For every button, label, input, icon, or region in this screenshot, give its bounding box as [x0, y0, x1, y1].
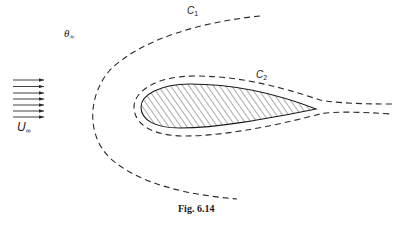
label-theta-infinity: θ∞	[64, 28, 74, 41]
label-c2: C2	[256, 70, 267, 81]
label-subscript: 2	[263, 74, 267, 81]
figure-caption: Fig. 6.14	[178, 203, 214, 214]
label-subscript: 1	[194, 10, 198, 17]
label-subscript: ∞	[69, 33, 74, 41]
label-u-infinity: U∞	[17, 121, 31, 134]
label-symbol: U	[17, 120, 26, 134]
label-subscript: ∞	[26, 127, 31, 134]
diagram-canvas	[0, 0, 406, 227]
freestream-arrows	[13, 80, 44, 117]
label-c1: C1	[187, 6, 198, 17]
figure-6-14: θ∞ U∞ C1 C2 Fig. 6.14	[0, 0, 406, 227]
